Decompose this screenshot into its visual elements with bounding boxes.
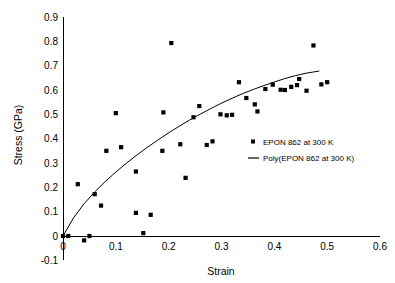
data-point-marker xyxy=(104,149,108,153)
data-point-marker xyxy=(93,192,97,196)
y-tick-label: 0.3 xyxy=(44,158,58,169)
data-point-marker xyxy=(114,111,118,115)
data-point-marker xyxy=(61,234,65,238)
y-tick-label: -0.1 xyxy=(41,255,59,266)
legend-item-label-epon: EPON 862 at 300 K xyxy=(263,138,334,147)
x-tick-label: 0.1 xyxy=(109,241,123,252)
data-point-marker xyxy=(237,80,241,84)
data-point-marker xyxy=(289,85,293,89)
data-point-marker xyxy=(311,43,315,47)
data-point-marker xyxy=(279,88,283,92)
y-axis-title: Stress (GPa) xyxy=(12,105,24,166)
data-point-marker xyxy=(297,77,301,81)
y-tick-label: 0.6 xyxy=(44,85,58,96)
y-tick-label: 0.5 xyxy=(44,109,58,120)
data-point-marker xyxy=(160,149,164,153)
legend-square-marker-icon xyxy=(251,140,255,144)
y-tick-label: 0.4 xyxy=(44,133,58,144)
data-point-marker xyxy=(205,143,209,147)
data-point-marker xyxy=(87,234,91,238)
x-tick-label: 0 xyxy=(60,241,66,252)
y-tick-label: 0.9 xyxy=(44,12,58,23)
data-point-marker xyxy=(134,169,138,173)
y-tick-label: 0.1 xyxy=(44,206,58,217)
scatter-plot: 00.10.20.30.40.50.6 -0.100.10.20.30.40.5… xyxy=(0,0,395,283)
data-point-marker xyxy=(161,110,165,114)
data-point-marker xyxy=(82,238,86,242)
data-point-marker xyxy=(191,115,195,119)
data-point-marker xyxy=(225,113,229,117)
data-point-marker xyxy=(134,211,138,215)
y-axis-tick-labels: -0.100.10.20.30.40.50.60.70.80.9 xyxy=(41,12,59,266)
y-tick-label: 0 xyxy=(52,231,58,242)
x-tick-label: 0.6 xyxy=(373,241,387,252)
x-tick-label: 0.4 xyxy=(267,241,281,252)
data-point-marker xyxy=(283,88,287,92)
data-point-marker xyxy=(119,145,123,149)
data-point-marker xyxy=(183,176,187,180)
x-axis-tick-labels: 00.10.20.30.40.50.6 xyxy=(60,241,387,252)
data-point-marker xyxy=(218,112,222,116)
x-tick-label: 0.2 xyxy=(162,241,176,252)
data-point-marker xyxy=(149,213,153,217)
data-point-marker xyxy=(244,96,248,100)
data-point-marker xyxy=(271,83,275,87)
x-tick-label: 0.5 xyxy=(320,241,334,252)
data-point-marker xyxy=(141,231,145,235)
x-tick-label: 0.3 xyxy=(215,241,229,252)
y-tick-label: 0.8 xyxy=(44,36,58,47)
data-point-marker xyxy=(255,109,259,113)
x-axis-title: Strain xyxy=(207,265,235,277)
data-point-marker xyxy=(253,102,257,106)
data-point-marker xyxy=(263,87,267,91)
data-point-marker xyxy=(230,113,234,117)
data-point-marker xyxy=(76,182,80,186)
data-point-marker xyxy=(304,89,308,93)
data-point-marker xyxy=(319,82,323,86)
chart-container: 00.10.20.30.40.50.6 -0.100.10.20.30.40.5… xyxy=(0,0,395,283)
data-point-marker xyxy=(99,203,103,207)
legend-item-label-poly: Poly(EPON 862 at 300 K) xyxy=(263,154,354,163)
y-tick-label: 0.7 xyxy=(44,60,58,71)
data-point-marker xyxy=(66,234,70,238)
y-tick-label: 0.2 xyxy=(44,182,58,193)
data-point-marker xyxy=(295,83,299,87)
data-point-marker xyxy=(178,142,182,146)
data-point-marker xyxy=(325,80,329,84)
data-point-marker xyxy=(210,139,214,143)
data-point-marker xyxy=(197,104,201,108)
legend: EPON 862 at 300 K Poly(EPON 862 at 300 K… xyxy=(248,138,354,163)
data-point-marker xyxy=(169,41,173,45)
